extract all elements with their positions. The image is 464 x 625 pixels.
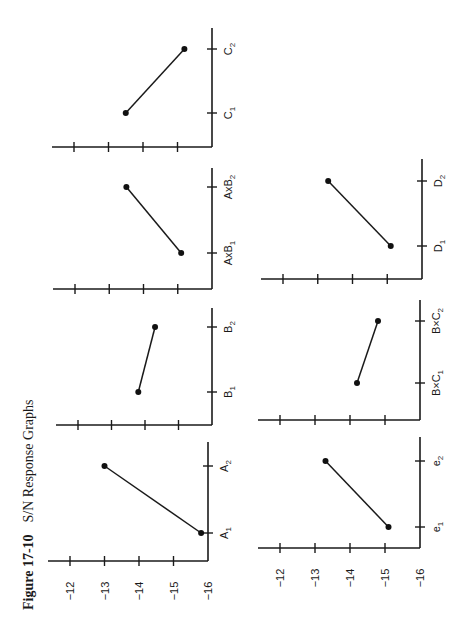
x-tick-label: B2: [222, 321, 237, 333]
x-tick-label: AxB2: [222, 174, 237, 199]
data-point: [123, 110, 129, 116]
data-point: [135, 389, 141, 395]
y-tick-label: −15: [168, 582, 180, 601]
x-tick-label: B×C1: [430, 369, 445, 396]
response-line: [126, 187, 181, 253]
figure-number-text: Figure 17-10: [21, 534, 36, 610]
x-tick-label: AxB1: [222, 240, 237, 265]
x-tick-label: C2: [222, 42, 237, 55]
y-tick-label: −16: [414, 569, 426, 588]
data-point: [198, 530, 204, 536]
x-tick-label: e1: [430, 521, 445, 532]
x-tick-label: A1: [218, 527, 233, 539]
data-point: [388, 243, 394, 249]
response-line: [138, 327, 155, 392]
data-point: [152, 324, 158, 330]
response-line: [326, 461, 389, 527]
figure-caption: Figure 17-10S/N Response Graphs: [21, 400, 36, 610]
x-tick-label: D2: [432, 174, 447, 187]
x-tick-label: A2: [218, 460, 233, 472]
data-point: [354, 380, 360, 386]
y-tick-label: −14: [344, 569, 356, 588]
y-tick-label: −16: [202, 582, 214, 601]
panel-a: −12−13−14−15−16A1A2: [48, 442, 233, 600]
response-line: [126, 49, 185, 113]
x-tick-label: C1: [222, 106, 237, 119]
y-tick-label: −12: [64, 582, 76, 601]
panel-d: D1D2: [261, 159, 447, 284]
data-point: [386, 524, 392, 530]
panel-c: C1C2: [52, 28, 237, 152]
response-line: [105, 466, 202, 533]
data-point: [181, 46, 187, 52]
data-point: [375, 318, 381, 324]
panel-bxc: B×C1B×C2: [258, 300, 445, 425]
panel-axb: AxB1AxB2: [53, 168, 237, 294]
sn-response-graphs-figure: Figure 17-10S/N Response Graphs −12−13−1…: [0, 0, 464, 625]
x-tick-label: e2: [430, 455, 445, 466]
figure-caption-text: Figure 17-10S/N Response Graphs: [21, 400, 36, 610]
data-point: [325, 178, 331, 184]
figure-title-text: S/N Response Graphs: [21, 400, 36, 523]
y-tick-label: −15: [379, 569, 391, 588]
panel-e: −12−13−14−15−16e1e2: [258, 437, 445, 587]
data-point: [123, 184, 129, 190]
response-line: [328, 181, 391, 246]
chart-panels: −12−13−14−15−16A1A2B1B2AxB1AxB2C1C2−12−1…: [48, 28, 447, 600]
x-tick-label: B×C2: [430, 307, 445, 334]
y-tick-label: −13: [309, 569, 321, 588]
data-point: [323, 458, 329, 464]
x-tick-label: D1: [432, 239, 447, 252]
response-line: [357, 321, 378, 383]
y-tick-label: −12: [274, 569, 286, 588]
data-point: [178, 250, 184, 256]
y-tick-label: −13: [99, 582, 111, 601]
data-point: [102, 463, 108, 469]
panel-b: B1B2: [56, 308, 237, 430]
x-tick-label: B1: [222, 386, 237, 398]
y-tick-label: −14: [133, 582, 145, 601]
